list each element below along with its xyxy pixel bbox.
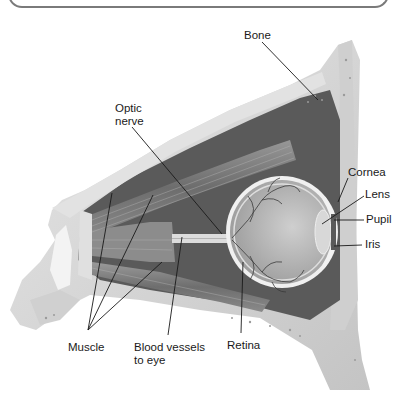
label-pupil: Pupil: [366, 213, 392, 226]
label-lens: Lens: [365, 188, 390, 201]
label-blood-vessels-line2: to eye: [134, 354, 205, 367]
label-blood-vessels-line1: Blood vessels: [134, 341, 205, 354]
label-bone: Bone: [244, 29, 271, 42]
label-iris: Iris: [365, 238, 380, 251]
label-retina: Retina: [227, 339, 260, 352]
label-cornea: Cornea: [348, 166, 386, 179]
eye-anatomy-illustration: [0, 0, 395, 396]
label-muscle: Muscle: [68, 341, 104, 354]
label-blood-vessels: Blood vessels to eye: [134, 341, 205, 367]
label-optic-nerve-line2: nerve: [115, 115, 144, 128]
label-optic-nerve: Optic nerve: [115, 102, 144, 128]
label-optic-nerve-line1: Optic: [115, 102, 144, 115]
